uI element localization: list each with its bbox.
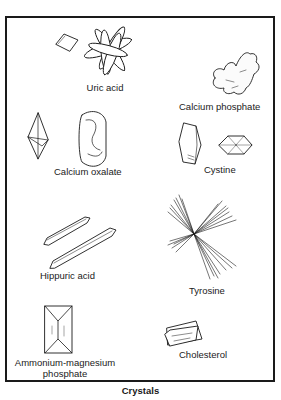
cystine-prism-icon xyxy=(179,123,201,164)
cystine-label: Cystine xyxy=(204,164,236,175)
ammonium-magnesium-phosphate-icon xyxy=(45,306,72,353)
calcium-phosphate-label: Calcium phosphate xyxy=(179,101,260,112)
cholesterol-label: Cholesterol xyxy=(179,349,227,360)
calcium-oxalate-label: Calcium oxalate xyxy=(54,166,122,177)
crystal-illustrations xyxy=(0,0,281,400)
calcium-oxalate-dumbbell-icon xyxy=(79,111,106,166)
ammonium-magnesium-phosphate-label: Ammonium-magnesium phosphate xyxy=(12,357,118,379)
ammonium-magnesium-phosphate-label-line1: Ammonium-magnesium xyxy=(12,357,118,368)
uric-acid-plate-icon xyxy=(56,34,78,51)
uric-acid-label: Uric acid xyxy=(70,82,140,93)
hippuric-acid-prisms-icon xyxy=(44,217,116,268)
cholesterol-plates-icon xyxy=(165,321,202,346)
figure-caption: Crystals xyxy=(0,385,281,396)
cystine-hexagon-icon xyxy=(219,136,252,154)
calcium-oxalate-octahedron-icon xyxy=(28,113,48,159)
tyrosine-label: Tyrosine xyxy=(189,285,225,296)
hippuric-acid-label: Hippuric acid xyxy=(40,270,95,281)
ammonium-magnesium-phosphate-label-line2: phosphate xyxy=(12,368,118,379)
calcium-phosphate-icon xyxy=(213,53,259,94)
uric-acid-rosette-icon xyxy=(83,25,134,77)
tyrosine-needles-icon xyxy=(168,195,236,279)
